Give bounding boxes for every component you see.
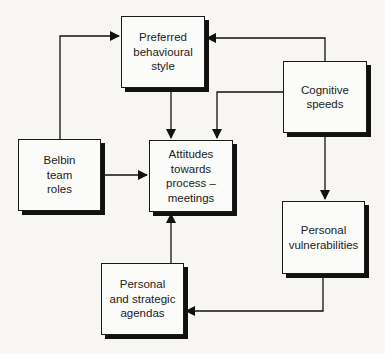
edge-vulnerabilities-agendas	[186, 276, 323, 311]
node-cognitive-speeds: Cognitive speeds	[283, 61, 367, 133]
edge-belbin-preferred	[60, 36, 119, 139]
node-label-line: meetings	[166, 191, 216, 206]
node-belbin-team-roles: Belbin team roles	[18, 139, 101, 211]
node-label-line: process –	[166, 176, 216, 191]
node-preferred-behavioural-style: Preferred behavioural style	[121, 16, 205, 88]
node-label-line: Attitudes	[166, 147, 216, 162]
node-label-line: agendas	[110, 306, 176, 321]
node-label-line: vulnerabilities	[289, 238, 359, 253]
node-label-line: behavioural	[133, 45, 192, 60]
node-personal-vulnerabilities: Personal vulnerabilities	[282, 201, 365, 274]
node-label-line: style	[133, 59, 192, 74]
node-label-line: speeds	[301, 97, 349, 112]
edge-cognitive-preferred	[207, 38, 325, 61]
node-label-line: Personal	[289, 223, 359, 238]
node-attitudes-towards-process-meetings: Attitudes towards process – meetings	[149, 140, 233, 212]
node-label-line: and strategic	[110, 292, 176, 307]
node-personal-and-strategic-agendas: Personal and strategic agendas	[101, 263, 184, 335]
node-label-line: team	[44, 168, 76, 183]
edge-cognitive-attitudes	[217, 92, 283, 138]
node-label-line: Personal	[110, 277, 176, 292]
node-label-line: roles	[44, 182, 76, 197]
node-label-line: Cognitive	[301, 83, 349, 98]
node-label-line: Belbin	[44, 153, 76, 168]
node-label-line: towards	[166, 162, 216, 177]
node-label-line: Preferred	[133, 30, 192, 45]
